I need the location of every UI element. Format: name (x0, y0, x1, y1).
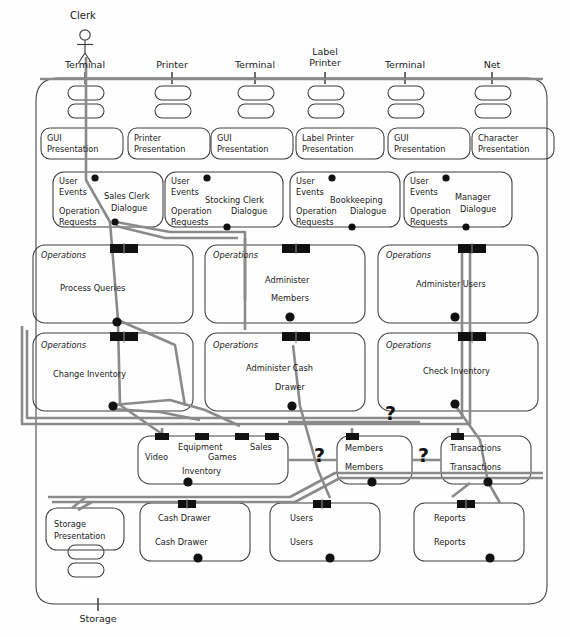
dialogue-in-label-1: User Events (59, 176, 87, 197)
inventory-label-inventory: Inventory (182, 466, 221, 477)
unknown-marker-2: ? (314, 446, 325, 465)
reports-label-bottom: Reports (434, 537, 465, 548)
presentation-label-5a: GUI (394, 133, 409, 144)
dialogue-out-label-2: Operation Requests (171, 206, 212, 227)
transactions-label-top: Transactions (450, 443, 501, 454)
ops2-name-2a: Administer Cash (246, 363, 313, 374)
presentation-label-2a: Printer (134, 133, 161, 144)
reports-label-top: Reports (434, 513, 465, 524)
port-label-storage: Storage (68, 613, 128, 624)
port-label-terminal-2: Terminal (225, 59, 285, 70)
unknown-marker-1: ? (385, 404, 396, 423)
dialogue-out-label-1: Operation Requests (59, 206, 100, 227)
dialogue-out-label-3: Operation Requests (296, 206, 337, 227)
presentation-label-6b: Presentation (478, 144, 529, 155)
storage-boxes (46, 503, 524, 561)
users-label-bottom: Users (290, 537, 313, 548)
presentation-label-4b: Presentation (302, 144, 353, 155)
presentation-label-6a: Character (478, 133, 518, 144)
dialogue-name-4b: Dialogue (460, 204, 496, 215)
presentation-label-3b: Presentation (217, 144, 268, 155)
ops2-name-2b: Drawer (275, 382, 305, 393)
presentation-label-1b: Presentation (47, 144, 98, 155)
actor-label: Clerk (70, 10, 96, 21)
inventory-label-games: Games (208, 452, 237, 463)
dialogue-in-label-4: User Events (410, 176, 438, 197)
ops2-iface-1: Operations (41, 340, 86, 351)
ops1-name-3: Administer Users (416, 279, 486, 290)
port-label-terminal-1: Terminal (55, 59, 115, 70)
ops1-name-1: Process Queries (60, 283, 125, 294)
inventory-label-sales: Sales (250, 442, 272, 453)
dialogue-out-label-4: Operation Requests (410, 206, 451, 227)
ops1-iface-3: Operations (386, 250, 431, 261)
ops2-iface-3: Operations (386, 340, 431, 351)
diagram-canvas: Clerk Terminal Printer Terminal Label Pr… (0, 0, 570, 637)
inventory-label-video: Video (145, 452, 168, 463)
storage-presentation-label-a: Storage (54, 519, 86, 530)
cash-drawer-label-bottom: Cash Drawer (155, 537, 208, 548)
ops1-name-2a: Administer (265, 275, 309, 286)
port-label-label-printer: Label Printer (295, 46, 355, 68)
dialogue-name-3a: Bookkeeping (330, 195, 383, 206)
presentation-label-1a: GUI (47, 133, 62, 144)
members-label-top: Members (345, 443, 383, 454)
unknown-marker-3: ? (418, 446, 429, 465)
presentation-label-2b: Presentation (134, 144, 185, 155)
ops1-name-2b: Members (271, 293, 309, 304)
ops2-name-3: Check Inventory (423, 366, 490, 377)
storage-presentation-label-b: Presentation (54, 531, 105, 542)
dialogue-name-2b: Dialogue (231, 206, 267, 217)
members-label-bottom: Members (345, 462, 383, 473)
presentation-label-4a: Label Printer (302, 133, 354, 144)
dialogue-name-2a: Stocking Clerk (205, 195, 264, 206)
cash-drawer-label-top: Cash Drawer (158, 513, 211, 524)
inventory-label-equipment: Equipment (178, 442, 222, 453)
dialogue-name-1a: Sales Clerk (104, 191, 150, 202)
transactions-label-bottom: Transactions (450, 462, 501, 473)
ops2-iface-2: Operations (213, 340, 258, 351)
port-label-terminal-3: Terminal (375, 59, 435, 70)
dialogue-in-label-2: User Events (171, 176, 199, 197)
ops1-iface-1: Operations (41, 250, 86, 261)
ops1-iface-2: Operations (213, 250, 258, 261)
port-label-net: Net (462, 59, 522, 70)
port-label-printer: Printer (142, 59, 202, 70)
dialogue-in-label-3: User Events (296, 176, 324, 197)
ops2-name-1: Change Inventory (53, 369, 126, 380)
dialogue-name-3b: Dialogue (350, 206, 386, 217)
presentation-label-3a: GUI (217, 133, 232, 144)
presentation-label-5b: Presentation (394, 144, 445, 155)
dialogue-name-1b: Dialogue (111, 203, 147, 214)
users-label-top: Users (290, 513, 313, 524)
dialogue-name-4a: Manager (455, 192, 491, 203)
